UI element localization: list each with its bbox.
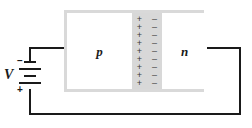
battery-negative-terminal-label: – (17, 56, 23, 66)
positive-charge-sign: + (135, 79, 144, 87)
depletion-charge-grid: +–+–+–+–+–+–+–+–+– (132, 13, 162, 89)
n-type-region: n (162, 13, 207, 89)
depletion-region: +–+–+–+–+–+–+–+–+– (132, 13, 162, 89)
semiconductor-bar: p +–+–+–+–+–+–+–+–+– n (64, 10, 204, 92)
wire-right-horizontal (202, 47, 241, 49)
battery-positive-terminal-label: + (17, 85, 23, 95)
battery-plate-short-1 (24, 61, 36, 63)
depletion-charge-row: +– (132, 79, 162, 87)
p-type-region: p (67, 13, 132, 89)
wire-battery-top-stub (29, 47, 31, 61)
battery-plate-short-2 (24, 75, 36, 77)
wire-right-vertical (239, 47, 241, 115)
p-region-label: p (96, 45, 103, 58)
voltage-source-label: V (4, 68, 13, 82)
wire-left-horizontal (29, 47, 66, 49)
n-region-label: n (181, 45, 188, 58)
negative-charge-sign: – (150, 79, 159, 87)
pn-junction-diagram: – + V p +–+–+–+–+–+–+–+–+– n (0, 0, 252, 128)
wire-battery-bottom-stub (29, 89, 31, 115)
battery-plate-long-1 (19, 68, 41, 70)
wire-bottom-rail (29, 113, 241, 115)
